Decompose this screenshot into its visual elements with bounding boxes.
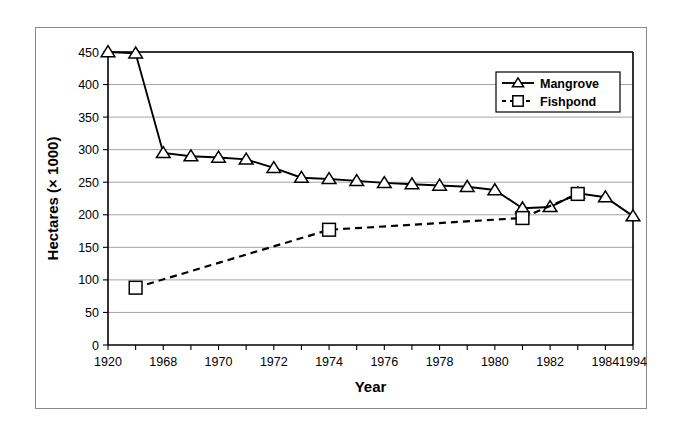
x-tick-label: 1972 [260, 355, 288, 369]
data-point-mangrove [626, 210, 640, 221]
y-tick-label: 250 [78, 176, 99, 190]
y-tick-label: 50 [85, 306, 99, 320]
y-tick-label: 0 [92, 339, 99, 353]
data-point-mangrove [156, 147, 170, 158]
data-point-fishpond [129, 281, 142, 294]
y-axis-title: Hectares (× 1000) [44, 137, 61, 261]
y-tick-label: 400 [78, 78, 99, 92]
legend-marker-fishpond [513, 96, 523, 106]
data-point-mangrove [101, 46, 115, 57]
y-tick-label: 200 [78, 208, 99, 222]
x-tick-label: 1980 [481, 355, 509, 369]
series-line-fishpond [136, 194, 578, 288]
legend-label-fishpond: Fishpond [540, 95, 596, 109]
x-axis-title: Year [355, 378, 387, 395]
data-point-fishpond [323, 223, 336, 236]
y-tick-label: 100 [78, 273, 99, 287]
x-tick-label: 1976 [370, 355, 398, 369]
x-tick-label: 1994 [619, 355, 647, 369]
x-tick-label: 1970 [205, 355, 233, 369]
chart-canvas: 0501001502002503003504004501920196819701… [0, 0, 684, 438]
x-tick-label: 1920 [94, 355, 122, 369]
y-tick-label: 150 [78, 241, 99, 255]
y-tick-label: 450 [78, 46, 99, 60]
y-tick-label: 300 [78, 143, 99, 157]
y-tick-label: 350 [78, 111, 99, 125]
x-tick-label: 1982 [536, 355, 564, 369]
x-tick-label: 1984 [591, 355, 619, 369]
line-chart: 0501001502002503003504004501920196819701… [0, 0, 684, 438]
data-point-fishpond [571, 188, 584, 201]
x-tick-label: 1978 [426, 355, 454, 369]
legend-label-mangrove: Mangrove [540, 77, 599, 91]
data-point-fishpond [516, 212, 529, 225]
x-tick-label: 1968 [149, 355, 177, 369]
x-tick-label: 1974 [315, 355, 343, 369]
